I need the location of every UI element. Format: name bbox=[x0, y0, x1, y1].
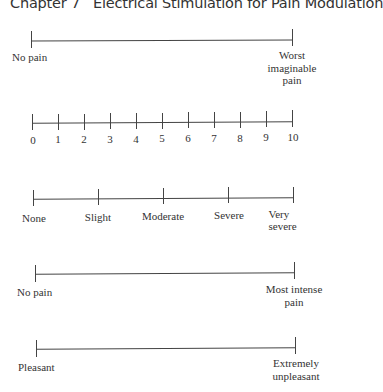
scale-tick bbox=[188, 112, 189, 128]
tick-label: 0 bbox=[30, 134, 36, 146]
chapter-label: Chapter 7 bbox=[10, 0, 80, 11]
tick-label: Severe bbox=[214, 209, 244, 221]
right-anchor-label: Extremely unpleasant bbox=[266, 357, 326, 382]
scale-line bbox=[35, 272, 295, 274]
scale-tick bbox=[163, 188, 164, 204]
scale-line bbox=[31, 40, 293, 42]
scale-line bbox=[36, 347, 296, 349]
scale-tick bbox=[293, 187, 294, 203]
scale-tick bbox=[162, 113, 163, 129]
scale-tick bbox=[32, 114, 33, 130]
scale-tick bbox=[58, 114, 59, 130]
scale-tick bbox=[110, 113, 111, 129]
tick-label: 9 bbox=[263, 131, 269, 143]
tick-label: 3 bbox=[107, 133, 113, 145]
tick-label: 10 bbox=[288, 131, 299, 143]
right-anchor-label: Worst imaginable pain bbox=[262, 49, 322, 87]
scale-tick bbox=[240, 112, 241, 128]
left-anchor-label: Pleasant bbox=[18, 361, 55, 374]
tick-label: 2 bbox=[81, 133, 87, 145]
scale-tick bbox=[214, 112, 215, 128]
scale-end-tick bbox=[292, 29, 293, 46]
tick-label: Very severe bbox=[269, 208, 318, 232]
tick-label: 1 bbox=[55, 133, 61, 145]
chapter-title: Electrical Stimulation for Pain Modulati… bbox=[93, 0, 383, 11]
tick-label: 7 bbox=[211, 132, 217, 144]
left-anchor-label: No pain bbox=[17, 286, 52, 299]
left-anchor-label: No pain bbox=[12, 51, 47, 64]
tick-label: Slight bbox=[85, 211, 111, 223]
scale-tick bbox=[33, 190, 34, 206]
tick-label: 5 bbox=[159, 132, 165, 144]
tick-label: 8 bbox=[237, 132, 243, 144]
scale-tick bbox=[136, 113, 137, 129]
scale-tick bbox=[266, 111, 267, 127]
tick-label: None bbox=[22, 212, 46, 224]
scale-end-tick bbox=[294, 262, 295, 279]
tick-label: Moderate bbox=[142, 210, 184, 222]
right-anchor-label: Most intense pain bbox=[259, 283, 329, 308]
scale-end-tick bbox=[295, 337, 296, 354]
tick-label: 6 bbox=[185, 132, 191, 144]
scale-tick bbox=[84, 114, 85, 130]
tick-label: 4 bbox=[133, 133, 139, 145]
scale-tick bbox=[98, 189, 99, 205]
scale-tick bbox=[228, 187, 229, 203]
scale-tick bbox=[292, 110, 293, 127]
